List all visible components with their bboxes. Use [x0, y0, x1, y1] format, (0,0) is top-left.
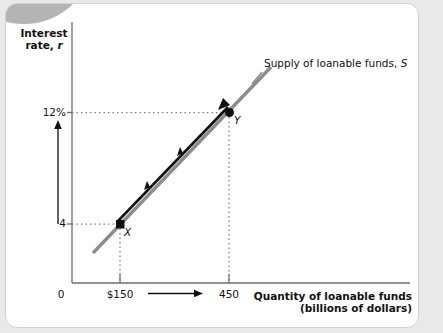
origin-label: 0 [54, 288, 68, 300]
interest-rate-change-arrow [54, 120, 62, 224]
quantity-change-arrowhead [194, 290, 203, 297]
rate-change-arrowhead [54, 120, 62, 129]
y-axis-title-line1: Interest [20, 27, 67, 39]
y-axis-title-line2: rate, [25, 39, 57, 51]
x-tick-label-150: $150 [94, 288, 146, 300]
supply-of-loanable-funds-chart: Interestrate, r Quantity of loanable fun… [0, 0, 443, 333]
point-y-label: Y [234, 114, 240, 126]
y-axis-title-variable: r [57, 39, 62, 51]
x-axis-title-line1: Quantity of loanable funds [254, 290, 412, 302]
point-x-label: X [124, 226, 131, 238]
x-axis-title: Quantity of loanable funds(billions of d… [236, 290, 412, 315]
supply-curve-label-symbol: S [401, 57, 408, 69]
movement-along-curve-arrow [118, 98, 230, 221]
movement-arrowheads [144, 98, 230, 190]
y-tick-label-4: 4 [42, 217, 66, 229]
point-marker-y [225, 108, 234, 117]
x-tick-label-450: 450 [207, 288, 251, 300]
y-tick-label-12: 12% [34, 106, 66, 118]
y-axis-title: Interestrate, r [20, 27, 68, 52]
movement-arrow-shaft [118, 107, 228, 221]
supply-curve-label-text: Supply of loanable funds, [264, 57, 401, 69]
x-axis-title-line2: (billions of dollars) [300, 302, 412, 314]
supply-curve-label: Supply of loanable funds, S [264, 57, 407, 69]
quantity-change-arrow [148, 290, 203, 297]
guide-lines [72, 113, 229, 284]
